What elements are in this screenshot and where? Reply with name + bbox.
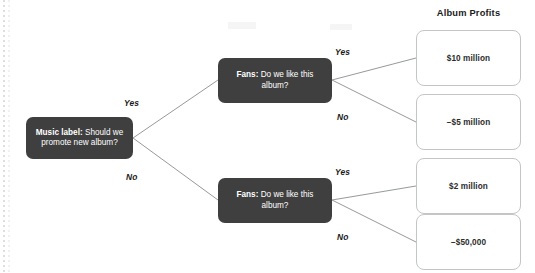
decision-tree-figure: Album Profits Music label: Should we pro… [0,0,535,273]
album-profits-header: Album Profits [416,8,521,18]
node-fans-bottom-lead: Fans: [237,190,259,199]
node-fans-top[interactable]: Fans: Do we like this album? [218,58,332,103]
branch-label-bottom-yes: Yes [335,167,350,177]
node-fans-top-question: Do we like this album? [261,70,314,89]
node-fans-bottom[interactable]: Fans: Do we like this album? [218,178,332,223]
branch-label-root-yes: Yes [124,98,139,108]
edge-top-yes [332,58,416,80]
node-fans-bottom-text: Fans: Do we like this album? [225,190,325,211]
node-music-label-lead: Music label: [36,128,83,137]
edge-root-no [133,138,218,200]
outcome-box: $2 million [416,158,521,214]
node-fans-top-lead: Fans: [237,70,259,79]
branch-label-root-no: No [126,172,138,182]
branch-label-top-yes: Yes [335,47,350,57]
edge-bottom-yes [332,186,416,200]
outcome-box: −$5 million [416,94,521,150]
outcome-box: −$50,000 [416,214,521,270]
node-music-label[interactable]: Music label: Should we promote new album… [26,117,133,159]
edge-root-yes [133,80,218,138]
node-fans-bottom-question: Do we like this album? [261,190,314,209]
node-music-label-text: Music label: Should we promote new album… [33,128,126,149]
branch-label-bottom-no: No [337,232,349,242]
branch-label-top-no: No [337,112,349,122]
outcome-box: $10 million [416,30,521,86]
node-fans-top-text: Fans: Do we like this album? [225,70,325,91]
